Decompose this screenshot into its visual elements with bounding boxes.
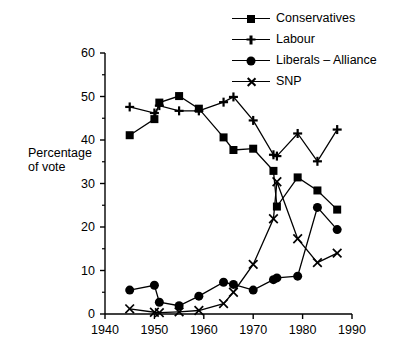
series-liberals-alliance-marker-circle — [249, 286, 258, 295]
series-liberals-alliance-marker-circle — [125, 286, 134, 295]
x-tick-label: 1960 — [184, 324, 224, 337]
series-liberals-alliance-marker-circle — [155, 298, 164, 307]
series-labour-marker-plus — [313, 160, 322, 162]
series-conservatives-marker-square — [249, 145, 257, 153]
series-labour-marker-plus — [150, 112, 159, 114]
x-tick-label: 1950 — [134, 324, 174, 337]
x-tick-label: 1940 — [85, 324, 125, 337]
series-liberals-alliance-marker-circle — [313, 203, 322, 212]
series-labour-marker-plus — [272, 155, 281, 157]
y-tick-label: 60 — [69, 47, 95, 60]
y-tick-label: 20 — [69, 221, 95, 234]
y-tick-label: 40 — [69, 134, 95, 147]
series-liberals-alliance-marker-circle — [293, 272, 302, 281]
series-liberals-alliance-marker-circle — [194, 292, 203, 301]
series-labour-marker-plus — [155, 105, 164, 107]
x-tick-label: 1970 — [233, 324, 273, 337]
series-conservatives-marker-square — [333, 206, 341, 214]
chart-root: ConservativesLabourLiberals – AllianceSN… — [0, 0, 411, 352]
series-line-liberals-alliance — [130, 207, 337, 305]
series-liberals-alliance-marker-circle — [150, 281, 159, 290]
series-conservatives-marker-square — [269, 167, 277, 175]
series-labour-marker-plus — [293, 132, 302, 134]
series-liberals-alliance-marker-circle — [219, 278, 228, 287]
series-labour-marker-plus — [249, 119, 258, 121]
series-labour-marker-plus — [333, 128, 342, 130]
series-conservatives-marker-square — [175, 92, 183, 100]
series-conservatives-marker-square — [294, 173, 302, 181]
series-conservatives-marker-square — [229, 146, 237, 154]
series-labour-marker-plus — [175, 110, 184, 112]
series-liberals-alliance — [125, 203, 341, 310]
x-tick-label: 1980 — [283, 324, 323, 337]
series-labour-marker-plus — [229, 96, 238, 98]
series-liberals-alliance-marker-circle — [333, 225, 342, 234]
series-labour-marker-plus — [219, 101, 228, 103]
series-conservatives-marker-square — [220, 133, 228, 141]
series-conservatives — [126, 92, 341, 214]
y-tick-label: 30 — [69, 178, 95, 191]
y-tick-label: 50 — [69, 91, 95, 104]
y-tick-label: 0 — [69, 308, 95, 321]
series-labour-marker-plus — [194, 110, 203, 112]
series-labour-marker-plus — [125, 106, 134, 108]
series-conservatives-marker-square — [126, 131, 134, 139]
x-tick-label: 1990 — [332, 324, 372, 337]
plot-area — [0, 0, 411, 352]
series-conservatives-marker-square — [313, 186, 321, 194]
series-liberals-alliance-marker-circle — [272, 273, 281, 282]
y-tick-label: 10 — [69, 265, 95, 278]
